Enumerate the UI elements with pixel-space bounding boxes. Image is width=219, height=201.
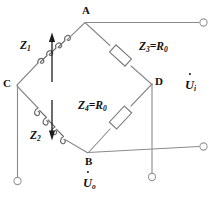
variable-arrow-Z1 (49, 33, 55, 83)
branch-C-A (17, 23, 85, 86)
wire-A-to-Z3 (86, 23, 111, 46)
wire-Z3-to-D (131, 66, 152, 85)
terminal-B[interactable] (200, 143, 207, 150)
wire-C-to-Z1 (17, 63, 38, 85)
wire-Z2-to-B (65, 140, 88, 153)
u-i-symbol: U (185, 78, 194, 92)
node-label-D: D (155, 76, 163, 87)
z4-subscript: 4 (85, 104, 89, 113)
u-i-subscript: i (194, 84, 196, 93)
component-label-Z3: Z3=R0 (139, 41, 168, 53)
lead-D-to-terminal (148, 84, 155, 181)
u-o-dot-wrap: U (83, 176, 92, 191)
u-o-subscript: o (92, 182, 96, 191)
z3-value-subscript: 0 (164, 45, 168, 54)
branch-B-D (89, 84, 153, 153)
node-label-A: A (82, 5, 90, 16)
circuit-schematic-canvas (0, 0, 219, 201)
z2-symbol: Z (30, 129, 37, 141)
lead-B-to-terminal (88, 143, 207, 153)
z1-symbol: Z (20, 39, 27, 51)
z1-subscript: 1 (27, 44, 31, 53)
arrow-head-Z1 (49, 33, 55, 43)
z3-subscript: 3 (146, 45, 150, 54)
z3-symbol: Z (139, 40, 146, 52)
wire-B-to-Z4 (89, 129, 111, 153)
resistor-box-Z4 (109, 106, 131, 129)
wire-Z4-to-D (131, 84, 152, 106)
wire-Z1-to-A (67, 23, 85, 40)
z4-symbol: Z (78, 99, 85, 111)
node-label-B: B (85, 156, 92, 167)
z4-value: =R (89, 99, 103, 111)
z4-value-subscript: 0 (103, 104, 107, 113)
terminal-D[interactable] (148, 173, 155, 180)
u-i-dot-wrap: U (185, 78, 194, 93)
z2-subscript: 2 (37, 134, 41, 143)
resistor-box-Z3 (110, 45, 132, 66)
component-label-Z1: Z1 (20, 40, 31, 52)
wire-B-right (88, 147, 199, 153)
branch-A-D (86, 23, 153, 85)
arrow-head-Z2 (49, 131, 55, 141)
terminal-A[interactable] (200, 19, 207, 26)
component-label-Z4: Z4=R0 (78, 100, 107, 112)
lead-A-to-terminal (85, 19, 207, 26)
node-label-C: C (3, 78, 11, 89)
wire-C-to-Z2 (17, 86, 38, 108)
output-voltage-phasor-label: Uo (83, 176, 96, 191)
u-o-symbol: U (83, 176, 92, 190)
circuit-diagram: A B C D Z1 Z2 Z3=R0 Z4=R0 Ui Uo (0, 0, 219, 201)
terminal-C[interactable] (14, 177, 21, 184)
lead-C-to-terminal (14, 85, 21, 185)
component-label-Z2: Z2 (30, 130, 41, 142)
z3-value: =R (150, 40, 164, 52)
input-voltage-phasor-label: Ui (185, 78, 196, 93)
